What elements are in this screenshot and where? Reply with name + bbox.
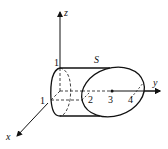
x-axis-hidden (51, 91, 60, 100)
y-axis-label: y (152, 77, 158, 88)
z-axis-label: z (63, 7, 68, 18)
y-tick-4: 4 (128, 94, 133, 105)
cylinder-end-back (60, 68, 71, 116)
x-axis (17, 103, 48, 136)
x-tick-1: 1 (40, 95, 45, 106)
x-axis-label: x (5, 131, 11, 142)
surface-label: S (94, 54, 99, 65)
y-tick-2: 2 (88, 94, 93, 105)
point-3 (110, 89, 113, 92)
y-tick-3: 3 (108, 94, 113, 105)
surface-diagram: z y x S 1 1 2 3 4 (0, 0, 168, 149)
z-tick-1: 1 (54, 57, 59, 68)
